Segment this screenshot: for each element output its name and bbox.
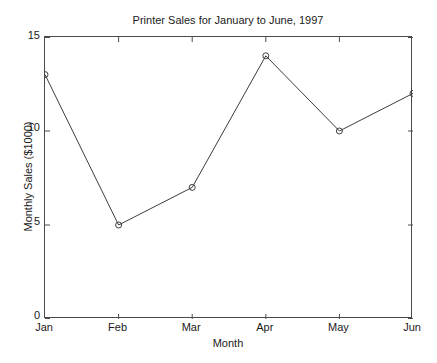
x-axis-tick-labels: Jan Feb Mar Apr May Jun: [44, 321, 412, 335]
plot-area: [44, 36, 412, 318]
x-axis-label: Month: [44, 337, 412, 350]
chart-title: Printer Sales for January to June, 1997: [44, 14, 412, 27]
x-tick-label-feb: Feb: [88, 321, 148, 333]
data-point-markers: [45, 53, 413, 228]
x-tick-label-mar: Mar: [161, 321, 221, 333]
data-line-series: [45, 56, 413, 225]
y-axis-tick-marks: [45, 38, 413, 319]
x-tick-label-jan: Jan: [14, 321, 74, 333]
y-tick-label-15: 15: [10, 30, 40, 41]
y-axis-tick-labels: 0 5 10 15: [6, 36, 40, 318]
y-tick-label-10: 10: [10, 122, 40, 133]
x-tick-label-may: May: [308, 321, 368, 333]
y-tick-label-0: 0: [10, 310, 40, 321]
plot-svg: [45, 37, 413, 319]
x-tick-label-jun: Jun: [382, 321, 437, 333]
x-tick-label-apr: Apr: [235, 321, 295, 333]
figure-canvas: Printer Sales for January to June, 1997 …: [0, 0, 437, 363]
y-tick-label-5: 5: [10, 216, 40, 227]
x-axis-tick-marks: [119, 37, 340, 319]
